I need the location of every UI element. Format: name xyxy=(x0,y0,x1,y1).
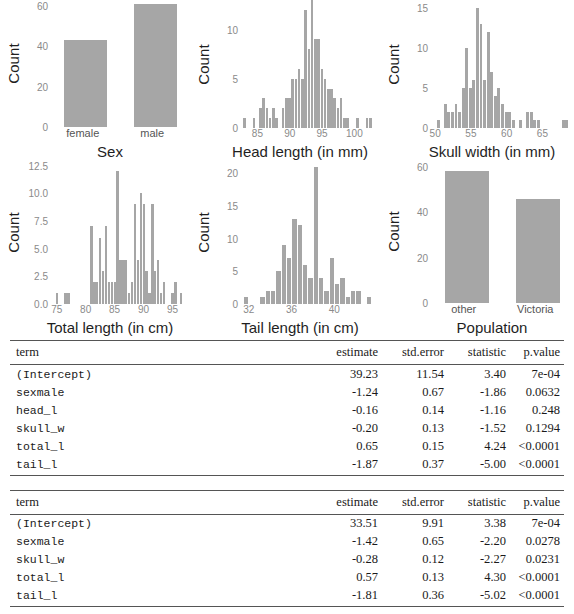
x-tick-label: 90 xyxy=(284,128,295,139)
y-tick-label: 40 xyxy=(417,207,428,218)
value-cell: 0.0278 xyxy=(510,533,564,551)
bars-layer xyxy=(241,0,380,128)
histogram-bar xyxy=(295,79,298,128)
y-tick-label: 20 xyxy=(37,81,48,92)
value-cell: 0.65 xyxy=(382,533,448,551)
table-row: (Intercept)33.519.913.387e-04 xyxy=(10,514,564,533)
histogram-bar xyxy=(351,291,355,304)
rule xyxy=(10,475,564,476)
bars-layer xyxy=(241,160,380,304)
table-row: sexmale-1.420.65-2.200.0278 xyxy=(10,533,564,551)
histogram-bar xyxy=(343,118,346,128)
histogram-bar xyxy=(266,291,270,304)
histogram-bar xyxy=(455,104,458,128)
regression-tables: termestimatestd.errorstatisticp.value(In… xyxy=(10,340,564,607)
histogram-bar xyxy=(327,89,330,128)
column-header-statistic: statistic xyxy=(448,490,510,514)
histogram-bar xyxy=(487,32,490,128)
histogram-bar xyxy=(537,120,540,128)
value-cell: 0.12 xyxy=(382,551,448,569)
histogram-bar xyxy=(505,112,508,128)
x-tick-label: 95 xyxy=(167,304,178,315)
value-cell: -0.28 xyxy=(308,551,382,569)
x-tick-label: 85 xyxy=(252,128,263,139)
table-row: (Intercept)39.2311.543.407e-04 xyxy=(10,365,564,384)
y-tick-label: 0.0 xyxy=(34,299,48,310)
term-cell: skull_w xyxy=(10,551,308,569)
histogram-bar xyxy=(483,80,486,128)
histogram-bar xyxy=(324,291,328,304)
histogram-bar xyxy=(458,112,461,128)
column-header-term: term xyxy=(10,341,308,365)
value-cell: 0.0632 xyxy=(510,383,564,401)
histogram-bar xyxy=(335,284,339,304)
y-tick-label: 10 xyxy=(227,233,238,244)
y-axis-label-text: Count xyxy=(195,212,212,253)
histogram-bar xyxy=(497,88,500,128)
histogram-bar xyxy=(319,278,323,304)
y-axis-ticks: 0204060 xyxy=(26,0,51,127)
histogram-bar xyxy=(291,79,294,128)
value-cell: 33.51 xyxy=(308,514,382,533)
table-header-row: termestimatestd.errorstatisticp.value xyxy=(10,341,564,365)
x-tick-label: 90 xyxy=(138,304,149,315)
histogram-bar xyxy=(56,293,58,304)
x-tick-label: 50 xyxy=(430,128,441,139)
value-cell: -0.16 xyxy=(308,401,382,419)
histogram-bar xyxy=(508,112,511,128)
histogram-bar xyxy=(472,80,475,128)
y-tick-label: 60 xyxy=(417,161,428,172)
value-cell: -2.27 xyxy=(448,551,510,569)
term-cell: skull_w xyxy=(10,419,308,437)
histogram-bar xyxy=(308,49,311,128)
table-row: total_l0.570.134.30<0.0001 xyxy=(10,569,564,587)
y-axis-label-text: Count xyxy=(195,44,212,85)
histogram-bar xyxy=(298,225,302,304)
x-axis-label: Sex xyxy=(30,142,190,160)
histogram-bar xyxy=(490,72,493,128)
histogram-bar xyxy=(262,98,265,128)
histogram-bar xyxy=(494,96,497,128)
histogram-bar xyxy=(562,120,565,128)
y-axis-ticks: 051015 xyxy=(406,0,431,128)
category-label: Victoria xyxy=(517,303,553,315)
y-tick-label: 10 xyxy=(227,24,238,35)
value-cell: 0.1294 xyxy=(510,419,564,437)
y-tick-label: 20 xyxy=(417,252,428,263)
table-row: skull_w-0.280.12-2.270.0231 xyxy=(10,551,564,569)
histogram-bar xyxy=(174,282,176,304)
chart-grid: Count0204060femalemaleSexCount0510859095… xyxy=(0,0,574,336)
histogram-bar xyxy=(163,282,165,304)
term-cell: (Intercept) xyxy=(10,514,308,533)
value-cell: 0.15 xyxy=(382,437,448,455)
x-tick-label: 95 xyxy=(316,128,327,139)
y-tick-label: 5.0 xyxy=(34,243,48,254)
term-cell: total_l xyxy=(10,437,308,455)
chart-panel-tail-length: Count05101520323640Tail length (in cm) xyxy=(190,160,380,336)
table-model-2: termestimatestd.errorstatisticp.value(In… xyxy=(10,490,564,608)
value-cell: -1.52 xyxy=(448,419,510,437)
plot-area xyxy=(51,160,190,304)
plot-area xyxy=(51,0,190,127)
value-cell: -1.16 xyxy=(448,401,510,419)
table-bottom-rule xyxy=(10,475,564,476)
x-tick-label: 55 xyxy=(465,128,476,139)
value-cell: -0.20 xyxy=(308,419,382,437)
histogram-bar xyxy=(337,108,340,128)
histogram-bar xyxy=(366,118,369,128)
histogram-bar xyxy=(369,118,372,128)
y-axis-ticks: 0.02.55.07.510.012.5 xyxy=(26,160,51,304)
column-header-estimate: estimate xyxy=(308,490,382,514)
value-cell: 0.248 xyxy=(510,401,564,419)
term-cell: sexmale xyxy=(10,383,308,401)
histogram-bar xyxy=(330,89,333,128)
y-axis-label-text: Count xyxy=(385,211,402,252)
histogram-bar xyxy=(480,24,483,128)
y-axis-label: Count xyxy=(190,0,216,128)
y-axis-ticks: 0204060 xyxy=(406,160,431,303)
value-cell: 7e-04 xyxy=(510,365,564,384)
value-cell: 39.23 xyxy=(308,365,382,384)
histogram-bar xyxy=(275,118,278,128)
y-axis-label-text: Count xyxy=(5,212,22,253)
y-tick-label: 10.0 xyxy=(29,188,48,199)
